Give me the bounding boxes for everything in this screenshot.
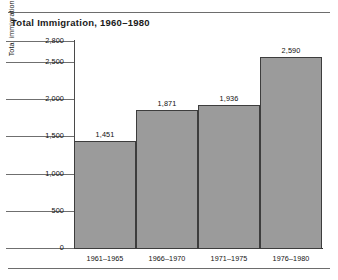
chart-figure: Total Immigration, 1960–1980 Total immig… xyxy=(0,0,338,280)
y-tick-label: 2,800 xyxy=(6,36,64,45)
y-tick-label: 500 xyxy=(6,206,64,215)
bar xyxy=(198,105,260,249)
bar xyxy=(136,110,198,249)
y-tick-label: 1,500 xyxy=(6,131,64,140)
x-tick-label: 1966–1970 xyxy=(136,254,198,263)
y-tick-label: 0 xyxy=(6,243,64,252)
y-tick-label: 2,500 xyxy=(6,57,64,66)
bar-value-label: 2,590 xyxy=(260,46,322,55)
y-tick-label: 2,000 xyxy=(6,94,64,103)
top-rule xyxy=(8,12,330,13)
bar xyxy=(260,57,322,249)
chart-title: Total Immigration, 1960–1980 xyxy=(11,17,150,28)
y-tick-label: 1,000 xyxy=(6,169,64,178)
bar-value-label: 1,871 xyxy=(136,99,198,108)
x-tick-label: 1971–1975 xyxy=(198,254,260,263)
plot-area: 2,8002,5002,0001,5001,0005000 1,4511,871… xyxy=(74,40,322,249)
x-tick-label: 1961–1965 xyxy=(74,254,136,263)
bar-value-label: 1,451 xyxy=(74,130,136,139)
bar xyxy=(74,141,136,249)
x-tick-label: 1976–1980 xyxy=(260,254,322,263)
bottom-rule xyxy=(8,268,330,269)
bar-value-label: 1,936 xyxy=(198,94,260,103)
